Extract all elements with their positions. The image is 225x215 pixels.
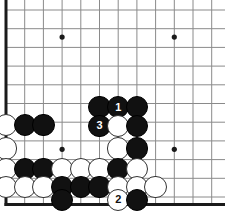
stone-move-number: 3 xyxy=(97,120,103,131)
stone-black[interactable] xyxy=(126,137,148,159)
stone-black[interactable] xyxy=(32,114,54,136)
star-point-1 xyxy=(172,35,177,40)
star-point-0 xyxy=(60,35,65,40)
stone-black[interactable] xyxy=(126,189,148,211)
go-board-diagram: 132 xyxy=(0,0,225,215)
stone-move-number: 1 xyxy=(115,101,121,112)
stone-black[interactable] xyxy=(51,189,73,211)
stone-black[interactable] xyxy=(126,115,148,137)
board-surface[interactable]: 132 xyxy=(0,0,225,215)
stone-move-number: 2 xyxy=(115,194,121,205)
stone-white[interactable] xyxy=(144,176,166,198)
star-point-3 xyxy=(172,147,177,152)
star-point-2 xyxy=(60,147,65,152)
